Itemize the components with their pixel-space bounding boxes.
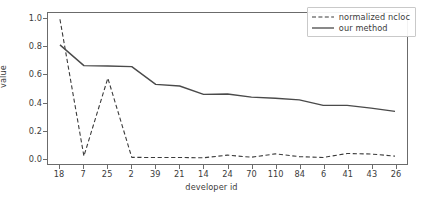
x-tick-mark: [155, 165, 156, 169]
y-tick-label: 0.6: [8, 69, 42, 79]
solid-line-swatch-icon: [312, 24, 334, 32]
x-tick-label: 14: [198, 169, 209, 179]
x-tick-label: 41: [343, 169, 354, 179]
legend-item-normalized-ncloc[interactable]: normalized ncloc: [312, 11, 410, 22]
x-tick-mark: [131, 165, 132, 169]
x-tick-mark: [396, 165, 397, 169]
x-axis-label: developer id: [0, 182, 423, 192]
x-tick-label: 7: [80, 169, 85, 179]
y-tick-label: 0.4: [8, 98, 42, 108]
x-tick-mark: [372, 165, 373, 169]
x-tick-label: 6: [321, 169, 326, 179]
y-tick-label: 1.0: [8, 13, 42, 23]
x-tick-label: 84: [294, 169, 305, 179]
legend: normalized ncloc our method: [307, 7, 416, 37]
series-line-our-method: [60, 45, 395, 111]
x-tick-mark: [252, 165, 253, 169]
y-tick-label: 0.2: [8, 126, 42, 136]
x-tick-label: 39: [150, 169, 161, 179]
x-tick-label: 26: [391, 169, 402, 179]
x-tick-mark: [179, 165, 180, 169]
chart-figure: value 0.00.20.40.60.81.0 187252392114247…: [0, 0, 423, 201]
y-tick-label: 0.0: [8, 154, 42, 164]
x-tick-mark: [59, 165, 60, 169]
x-tick-label: 25: [102, 169, 113, 179]
series-line-normalized-ncloc: [60, 19, 395, 158]
y-axis-label: value: [0, 65, 8, 88]
legend-label: normalized ncloc: [339, 12, 410, 22]
x-tick-label: 2: [129, 169, 134, 179]
x-tick-label: 18: [54, 169, 65, 179]
legend-item-our-method[interactable]: our method: [312, 22, 410, 33]
dashed-line-swatch-icon: [312, 13, 334, 21]
x-tick-mark: [107, 165, 108, 169]
x-tick-label: 21: [174, 169, 185, 179]
x-tick-mark: [348, 165, 349, 169]
x-tick-mark: [324, 165, 325, 169]
x-tick-mark: [300, 165, 301, 169]
x-tick-label: 110: [268, 169, 284, 179]
x-tick-mark: [276, 165, 277, 169]
x-tick-mark: [228, 165, 229, 169]
legend-label: our method: [339, 23, 388, 33]
y-tick-label: 0.8: [8, 41, 42, 51]
x-tick-mark: [83, 165, 84, 169]
x-tick-label: 24: [222, 169, 233, 179]
x-tick-mark: [203, 165, 204, 169]
x-tick-label: 70: [246, 169, 257, 179]
x-tick-label: 43: [367, 169, 378, 179]
